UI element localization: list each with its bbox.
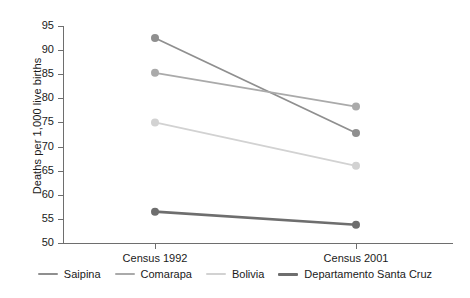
data-point-marker <box>151 34 159 42</box>
data-point-marker <box>151 118 159 126</box>
legend-item[interactable]: Comarapa <box>115 268 192 280</box>
chart-legend: SaipinaComarapaBoliviaDepartamento Santa… <box>0 268 470 280</box>
legend-item[interactable]: Departamento Santa Cruz <box>278 268 432 280</box>
data-point-marker <box>151 208 159 216</box>
series-saipina <box>151 34 360 137</box>
series-line <box>155 122 356 165</box>
series-line <box>155 38 356 133</box>
data-point-marker <box>352 103 360 111</box>
data-point-marker <box>352 129 360 137</box>
chart-container: Deaths per 1,000 live births 50556065707… <box>0 0 470 298</box>
legend-label: Bolivia <box>232 268 264 280</box>
legend-line-swatch <box>206 273 226 275</box>
series-line <box>155 73 356 107</box>
plot-area <box>0 0 470 298</box>
series-bolivia <box>151 118 360 169</box>
legend-label: Saipina <box>64 268 101 280</box>
series-line <box>155 212 356 225</box>
data-point-marker <box>352 162 360 170</box>
legend-line-swatch <box>278 273 298 276</box>
legend-item[interactable]: Saipina <box>38 268 101 280</box>
data-point-marker <box>151 69 159 77</box>
series-comarapa <box>151 69 360 111</box>
data-point-marker <box>352 221 360 229</box>
legend-line-swatch <box>115 273 135 275</box>
legend-label: Comarapa <box>141 268 192 280</box>
legend-line-swatch <box>38 273 58 275</box>
legend-item[interactable]: Bolivia <box>206 268 264 280</box>
series-departamento-santa-cruz <box>151 208 360 229</box>
legend-label: Departamento Santa Cruz <box>304 268 432 280</box>
